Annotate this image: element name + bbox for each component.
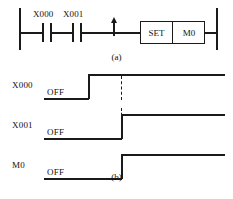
waveform-x001-rising-edge — [121, 114, 123, 139]
rung-segment-4 — [205, 32, 217, 34]
reference-marker-segment-1 — [121, 76, 122, 100]
waveform-m0-high — [121, 154, 225, 156]
contact-x000-left-bar — [42, 23, 44, 42]
rung-segment-2 — [52, 32, 72, 34]
timing-caption: (b) — [0, 172, 233, 182]
signal-off-label-x001: OFF — [47, 127, 64, 137]
instruction-box-set-m0[interactable]: SET M0 — [140, 21, 205, 44]
contact-x000-label: X000 — [33, 9, 53, 19]
signal-label-m0: M0 — [12, 160, 25, 170]
rung-segment-1 — [20, 32, 42, 34]
contact-x001[interactable] — [72, 23, 82, 42]
right-power-rail — [216, 8, 218, 50]
waveform-x001-high — [121, 114, 225, 116]
instruction-opcode: SET — [141, 22, 173, 43]
signal-label-x001: X001 — [12, 120, 33, 130]
left-power-rail — [19, 8, 21, 50]
timing-diagram: X000 OFF X001 OFF M0 OFF (b) — [0, 62, 233, 199]
ladder-caption: (a) — [0, 52, 233, 62]
waveform-x000-low — [44, 98, 89, 100]
contact-x000[interactable] — [42, 23, 52, 42]
signal-label-x000: X000 — [12, 80, 33, 90]
contact-x001-right-bar — [80, 23, 82, 42]
contact-x001-left-bar — [72, 23, 74, 42]
waveform-x000-rising-edge — [88, 74, 90, 99]
rising-edge-arrow-shaft — [113, 20, 115, 36]
rising-edge-arrow-icon — [109, 17, 118, 36]
ladder-diagram: X000 X001 SET M0 (a) — [0, 0, 233, 62]
signal-off-label-x000: OFF — [47, 87, 64, 97]
waveform-x000-high — [88, 74, 225, 76]
contact-x001-label: X001 — [63, 9, 83, 19]
contact-x000-right-bar — [50, 23, 52, 42]
waveform-x001-low — [44, 138, 122, 140]
figure-canvas: X000 X001 SET M0 (a) X000 OFF — [0, 0, 233, 199]
instruction-operand: M0 — [173, 22, 205, 43]
